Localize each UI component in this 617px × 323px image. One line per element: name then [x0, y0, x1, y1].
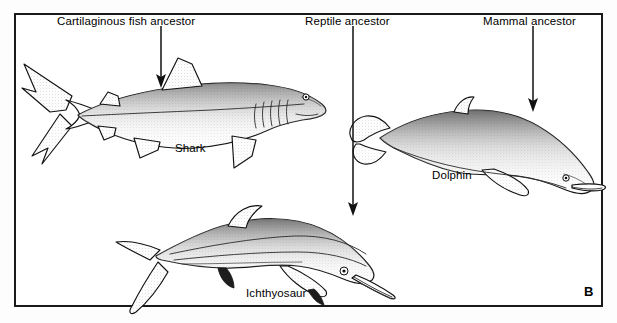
organism-label-shark: Shark: [175, 143, 206, 155]
ancestor-label-cartilaginous-fish: Cartilaginous fish ancestor: [57, 16, 195, 28]
arrow-mammal-ancestor: [524, 26, 542, 114]
arrow-reptile-ancestor: [344, 26, 362, 218]
organism-label-ichthyosaur: Ichthyosaur: [246, 288, 307, 300]
convergent-evolution-figure: Cartilaginous fish ancestor Reptile ance…: [0, 0, 617, 323]
ancestor-label-reptile: Reptile ancestor: [305, 16, 390, 28]
organism-label-dolphin: Dolphin: [432, 170, 472, 182]
ichthyosaur-illustration: [112, 206, 402, 318]
shark-illustration: [16, 52, 336, 177]
dolphin-illustration: [350, 96, 612, 206]
ancestor-label-mammal: Mammal ancestor: [483, 16, 576, 28]
arrow-cartilaginous-fish-ancestor: [152, 26, 170, 90]
panel-letter: B: [584, 285, 593, 298]
